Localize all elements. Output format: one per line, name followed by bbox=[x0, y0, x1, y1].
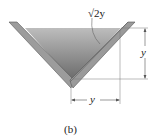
half-width-label: y bbox=[89, 93, 95, 105]
depth-arrow-bottom bbox=[144, 75, 147, 79]
depth-label: y bbox=[140, 46, 146, 58]
slant-length-label: √2y bbox=[88, 7, 106, 19]
v-channel-diagram: y y √2y (b) bbox=[0, 0, 154, 136]
half-width-arrow-right bbox=[116, 99, 120, 102]
depth-arrow-top bbox=[144, 28, 147, 32]
half-width-arrow-left bbox=[71, 99, 75, 102]
figure-caption: (b) bbox=[64, 123, 77, 136]
